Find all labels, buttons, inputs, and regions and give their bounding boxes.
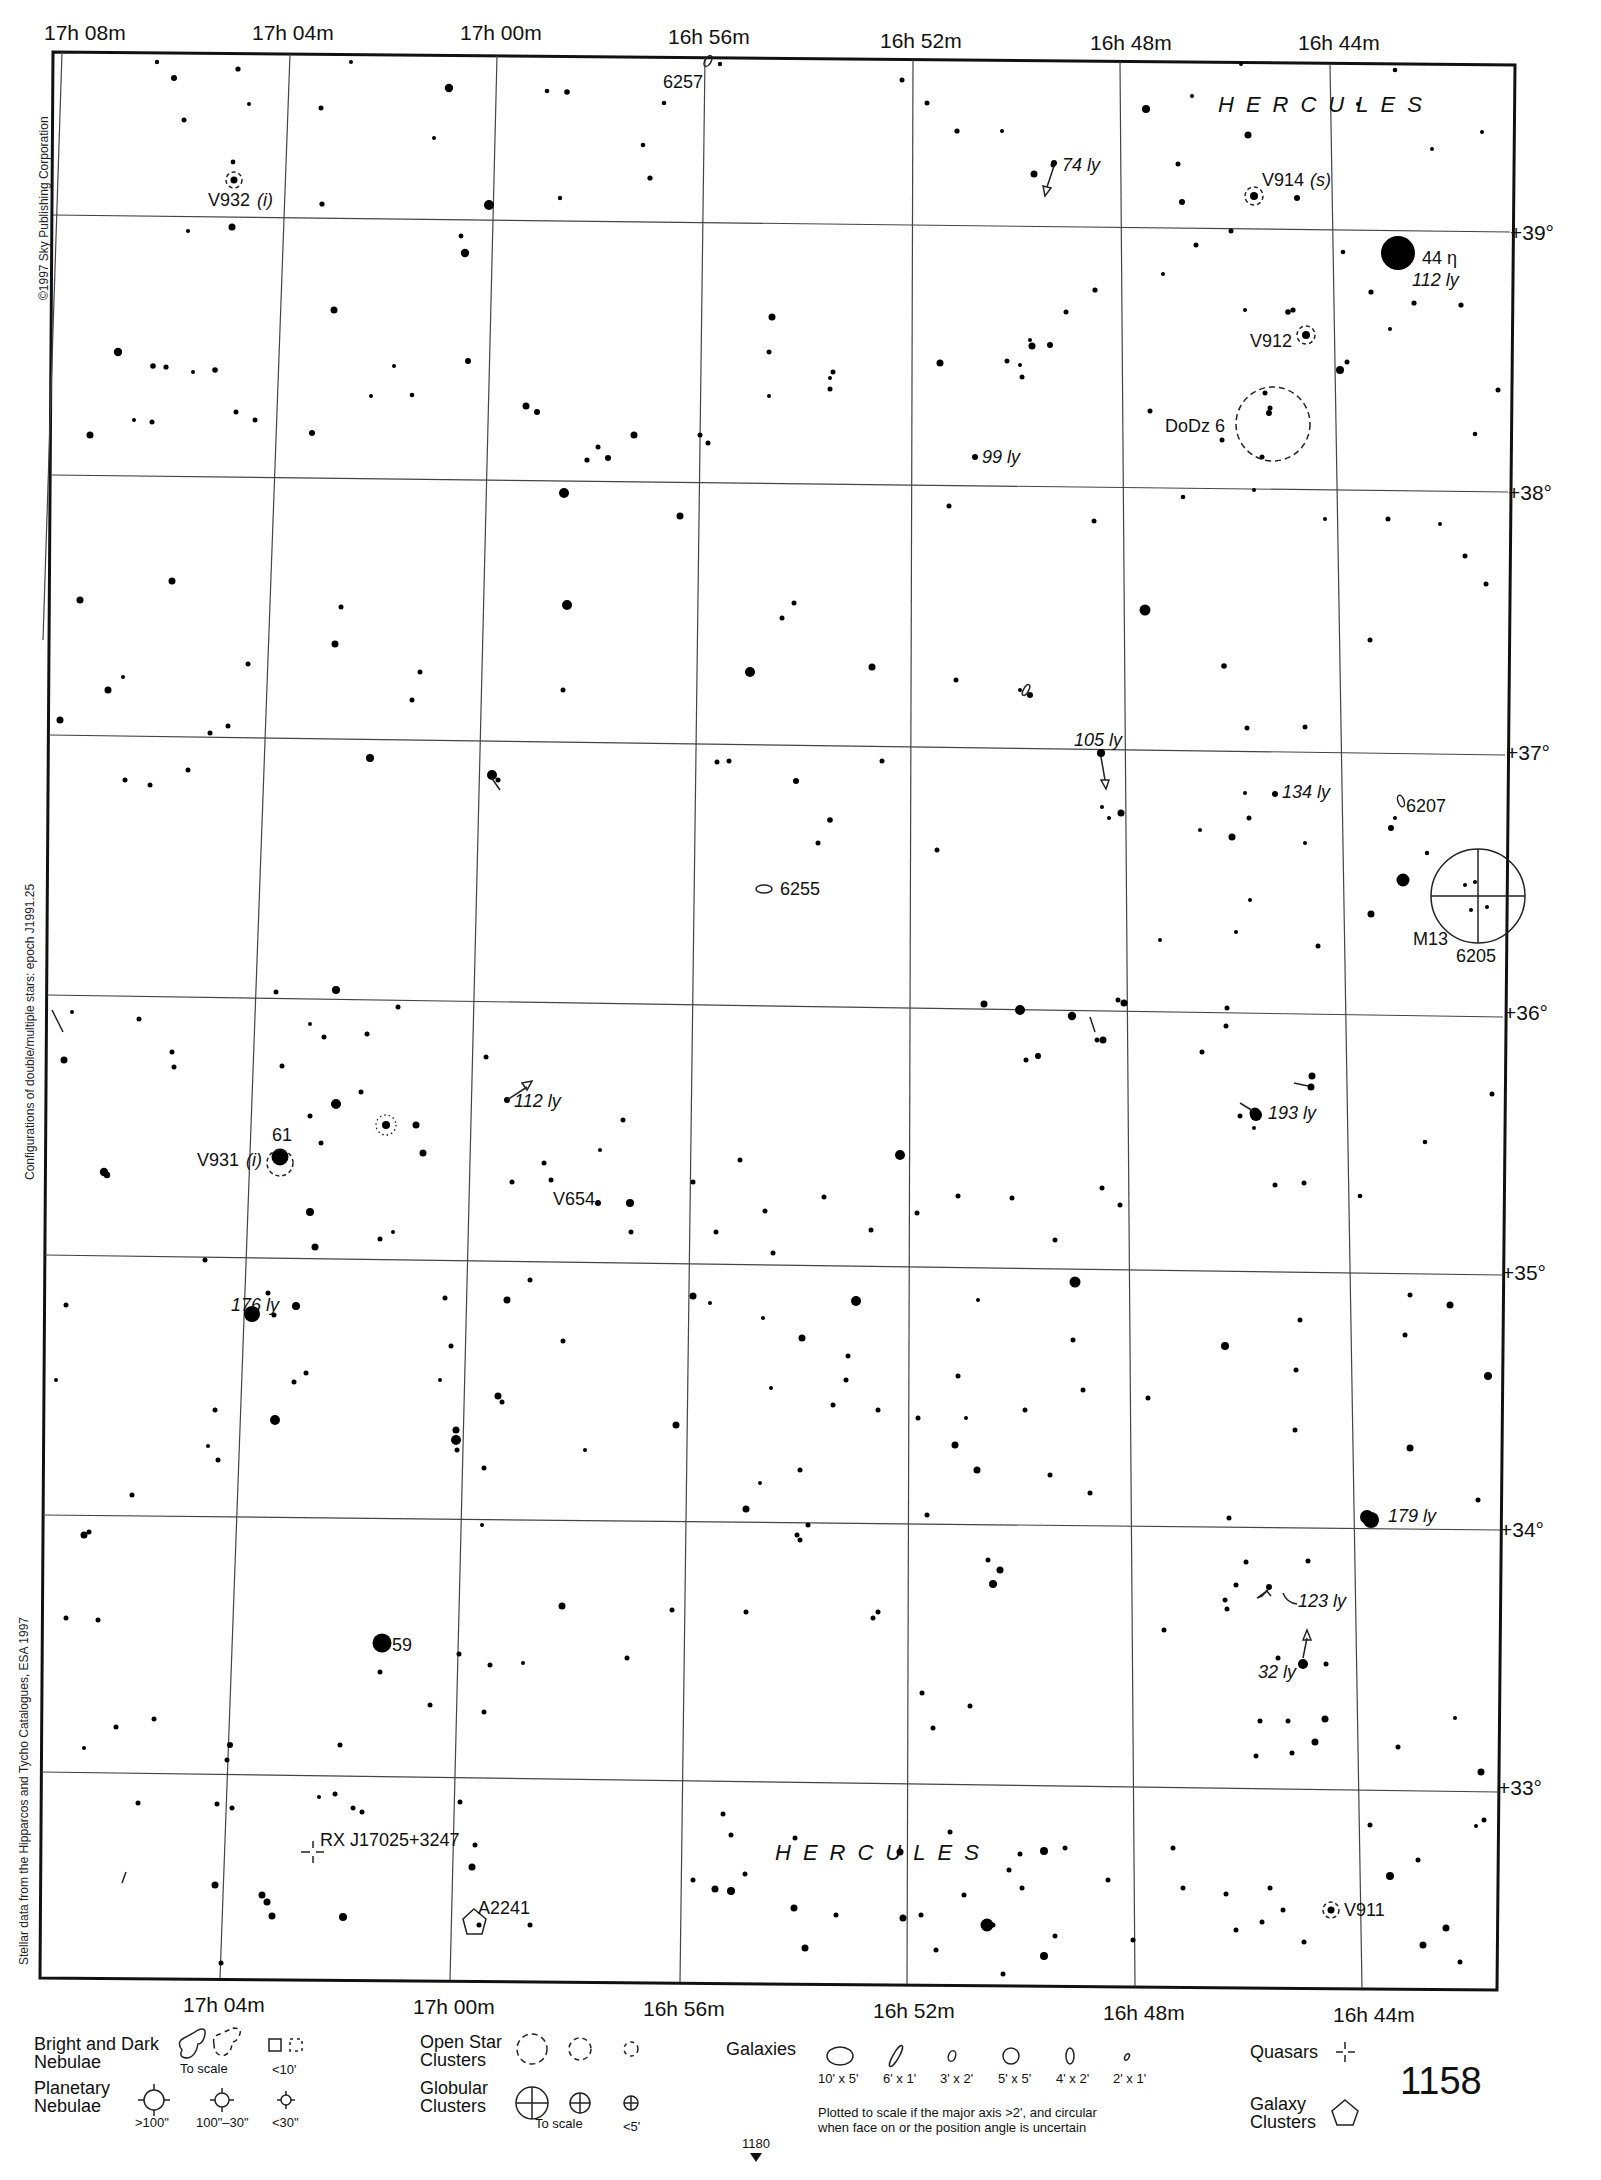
planetary-nebula-small-icon	[277, 2091, 295, 2109]
star-44-eta	[1381, 236, 1415, 270]
dec-label: +34°	[1500, 1518, 1544, 1541]
planetary-nebula-medium-icon	[210, 2088, 234, 2112]
ra-bottom-label: 16h 52m	[873, 1999, 955, 2022]
down-arrow-icon	[750, 2153, 762, 2162]
legend-galaxy-clusters-title: Galaxy	[1250, 2094, 1306, 2114]
ra-bottom-label: 17h 00m	[413, 1995, 495, 2018]
galaxy-5x5-icon	[1003, 2048, 1019, 2064]
chart-frame	[40, 52, 1515, 1990]
star-74ly	[1051, 160, 1057, 166]
legend-galaxy-note-1: Plotted to scale if the major axis >2', …	[818, 2105, 1098, 2120]
label-ngc6255: 6255	[780, 879, 820, 899]
label-rxj17025: RX J17025+3247	[320, 1830, 460, 1850]
label-ngc6257: 6257	[663, 72, 703, 92]
ra-top-label: 16h 52m	[880, 29, 962, 52]
legend-nebulae-title-2: Nebulae	[34, 2052, 101, 2072]
label-179ly: 179 ly	[1388, 1506, 1437, 1526]
ra-bottom-label: 16h 56m	[643, 1997, 725, 2020]
quasar-icon	[1336, 2042, 1355, 2062]
legend: Bright and Dark Nebulae To scale <10' Pl…	[34, 2028, 1482, 2162]
dark-nebula-icon	[214, 2028, 241, 2056]
label-eta-distance: 112 ly	[1412, 270, 1460, 290]
copyright-text: ©1997 Sky Publishing Corporation	[37, 116, 51, 300]
legend-galaxy-size: 2' x 1'	[1113, 2071, 1146, 2086]
label-99ly: 99 ly	[982, 447, 1021, 467]
constellation-label-top: HERCULES	[1218, 92, 1434, 117]
ra-bottom-label: 17h 04m	[183, 1993, 265, 2016]
legend-galaxy-size: 10' x 5'	[818, 2071, 858, 2086]
label-176ly: 176 ly	[231, 1295, 280, 1315]
label-193ly: 193 ly	[1268, 1103, 1317, 1123]
legend-planetary-size-small: <30"	[272, 2115, 299, 2130]
legend-planetary-title-2: Nebulae	[34, 2096, 101, 2116]
legend-galaxy-size: 3' x 2'	[940, 2071, 973, 2086]
page-number: 1158	[1400, 2060, 1482, 2102]
label-74ly: 74 ly	[1062, 155, 1101, 175]
star-32ly	[1298, 1659, 1308, 1669]
galaxy-6x1-icon	[887, 2044, 904, 2068]
legend-quasars-title: Quasars	[1250, 2042, 1318, 2062]
ra-top-label: 17h 04m	[252, 21, 334, 44]
open-cluster-small-icon	[624, 2042, 638, 2056]
legend-galaxy-clusters-title-2: Clusters	[1250, 2112, 1316, 2132]
ra-top-labels: 17h 08m 17h 04m 17h 00m 16h 56m 16h 52m …	[44, 21, 1380, 54]
legend-galaxy-size: 5' x 5'	[998, 2071, 1031, 2086]
label-123ly: 123 ly	[1298, 1591, 1347, 1611]
legend-globular-to-scale: To scale	[535, 2116, 583, 2131]
globular-cluster-medium-icon	[570, 2093, 590, 2113]
label-ngc6205: 6205	[1456, 946, 1496, 966]
legend-nebulae-title: Bright and Dark	[34, 2034, 160, 2054]
dec-label: +36°	[1504, 1001, 1548, 1024]
dec-label: +35°	[1502, 1261, 1546, 1284]
label-v911: V911	[1344, 1900, 1385, 1920]
label-v654: V654	[553, 1189, 595, 1209]
label-105ly: 105 ly	[1074, 730, 1123, 750]
star-105ly	[1097, 749, 1105, 757]
small-dark-nebula-icon	[290, 2039, 302, 2051]
dec-grid	[41, 215, 1510, 1792]
label-v931-note: (i)	[246, 1150, 262, 1170]
dec-label: +37°	[1506, 741, 1550, 764]
legend-nebulae-small: <10'	[272, 2062, 297, 2077]
globular-cluster-small-icon	[624, 2096, 638, 2110]
star-chart: 17h 08m 17h 04m 17h 00m 16h 56m 16h 52m …	[0, 0, 1601, 2180]
ra-top-label: 16h 56m	[668, 25, 750, 48]
dec-label: +33°	[1498, 1776, 1542, 1799]
label-134ly: 134 ly	[1282, 782, 1331, 802]
ra-top-label: 17h 08m	[44, 21, 126, 44]
legend-galaxy-size: 4' x 2'	[1056, 2071, 1089, 2086]
variable-v911	[1323, 1902, 1339, 1918]
open-cluster-medium-icon	[569, 2038, 591, 2060]
label-32ly: 32 ly	[1258, 1662, 1297, 1682]
label-v931: V931	[197, 1150, 239, 1170]
planetary-nebula-large-icon	[138, 2084, 170, 2116]
legend-planetary-title: Planetary	[34, 2078, 110, 2098]
legend-galaxy-note-2: when face on or the position angle is un…	[817, 2120, 1086, 2135]
label-v932: V932	[208, 190, 250, 210]
star-134ly	[1272, 791, 1278, 797]
ra-grid	[43, 52, 1362, 1988]
label-112ly: 112 ly	[514, 1091, 562, 1111]
star-99ly	[972, 454, 978, 460]
variable-v912	[1297, 326, 1315, 344]
globular-cluster-large-icon	[516, 2087, 548, 2119]
ra-top-label: 17h 00m	[460, 21, 542, 44]
galaxy-cluster-icon	[1332, 2100, 1358, 2125]
dec-label: +38°	[1508, 481, 1552, 504]
label-v932-note: (i)	[257, 190, 273, 210]
galaxy-6207-symbol	[1396, 794, 1406, 807]
galaxy-4x2-icon	[1066, 2048, 1074, 2064]
star-v654	[595, 1200, 601, 1206]
next-page-reference: 1180	[742, 2136, 770, 2151]
label-ngc6207: 6207	[1406, 796, 1446, 816]
small-bright-nebula-icon	[269, 2039, 281, 2051]
legend-galaxies-title: Galaxies	[726, 2039, 796, 2059]
open-cluster-dodz6	[1236, 387, 1310, 461]
epoch-note: Configurations of double/multiple stars:…	[23, 883, 37, 1180]
galaxy-10x5-icon	[827, 2047, 853, 2065]
star-123ly	[1266, 1584, 1272, 1590]
label-dodz6: DoDz 6	[1165, 416, 1225, 436]
legend-planetary-size-medium: 100"–30"	[196, 2115, 249, 2130]
variable-v914	[1245, 187, 1263, 205]
label-v914: V914	[1262, 170, 1304, 190]
